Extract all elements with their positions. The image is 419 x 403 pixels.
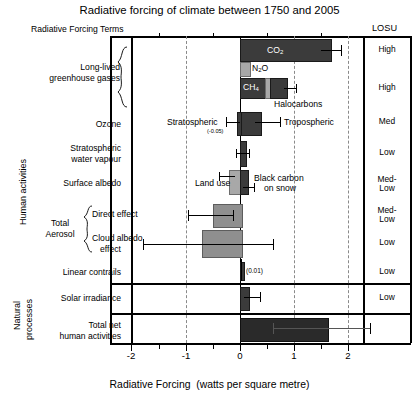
losu-value-llghg-1: High	[363, 45, 411, 54]
bar-total-net-human-activities	[240, 318, 329, 342]
errorbar-cap-black-carbon	[254, 183, 255, 192]
losu-value-solar: Low	[363, 293, 411, 302]
row-label-surface-albedo: Surface albedo	[15, 178, 121, 188]
xtick-label-0: 0	[230, 350, 250, 361]
tick-05	[267, 344, 268, 349]
errorbar-cap-aerosol-direct-high	[233, 210, 234, 221]
bar-label-halocarbons: Halocarbons	[274, 99, 322, 109]
errorbar-land-use	[219, 176, 235, 177]
bar-n2o	[240, 62, 251, 77]
errorbar-linear-contrails	[241, 259, 242, 281]
bar-tropospheric-ozone	[241, 112, 262, 136]
errorbar-stratospheric-ozone	[226, 122, 240, 123]
side-label-human-activities: Human activities	[18, 159, 28, 225]
row-label-total-aerosol-1: Total	[38, 218, 82, 228]
errorbar-swv	[236, 153, 249, 154]
bar-label-ch4: CH4	[243, 82, 259, 92]
bar-label-land-use: Land use	[195, 178, 230, 188]
chart-figure: Radiative forcing of climate between 175…	[0, 0, 419, 403]
errorbar-aerosol-direct	[188, 215, 233, 216]
losu-value-albedo-2: Low	[363, 184, 411, 193]
losu-rule-1	[363, 283, 411, 284]
errorbar-cap-aerosol-direct-low	[188, 210, 189, 221]
errorbar-cap-stratospheric-ozone	[226, 117, 227, 127]
row-label-swv-2: water vapour	[15, 154, 121, 164]
row-label-llghg-2: greenhouse gases	[15, 73, 120, 83]
errorbar-cap-tropospheric-ozone	[280, 117, 281, 127]
errorbar-solar-irradiance	[244, 297, 260, 298]
bar-co2	[240, 39, 332, 62]
losu-value-cloud-albedo: Low	[363, 238, 411, 247]
tick-top-neg05	[213, 33, 214, 38]
errorbar-cap-swv-low	[236, 149, 237, 158]
errorbar-halocarbons	[284, 88, 296, 89]
losu-value-llghg-2: High	[363, 83, 411, 92]
row-label-total-net-2: human activities	[15, 331, 121, 341]
bar-value-linear-contrails: (0.01)	[246, 267, 263, 274]
xtick-label-2: 2	[338, 350, 358, 361]
tick-neg05	[213, 344, 214, 349]
bar-aerosol-direct-effect	[213, 204, 243, 228]
errorbar-cap-co2-high	[341, 45, 342, 56]
divider-terms-plot	[131, 36, 133, 343]
bar-label-co2: CO2	[267, 45, 283, 55]
errorbar-cap-total-net-low	[273, 323, 274, 334]
bar-value-stratospheric: (-0.05)	[207, 128, 223, 134]
row-label-total-aerosol-2: Aerosol	[38, 229, 82, 239]
errorbar-cap-cloud-albedo-high	[273, 239, 274, 250]
tick-15	[321, 344, 322, 349]
bar-label-n2o: N2O	[252, 63, 268, 73]
losu-value-aerosol-direct-2: Low	[363, 215, 411, 224]
row-label-total-net-1: Total net	[15, 320, 121, 330]
losu-value-ozone: Med	[363, 117, 411, 126]
x-axis-title: Radiative Forcing (watts per square metr…	[0, 379, 419, 390]
bar-black-carbon-on-snow	[240, 170, 249, 195]
tick-top-neg15	[159, 33, 160, 38]
errorbar-cap-total-net-high	[370, 323, 371, 334]
xtick-label-neg2: -2	[121, 350, 141, 361]
row-label-ozone: Ozone	[15, 119, 121, 129]
tick-neg15	[159, 344, 160, 349]
xtick-label-1: 1	[284, 350, 304, 361]
column-header-losu: LOSU	[372, 24, 397, 34]
errorbar-cap-halocarbons	[296, 84, 297, 93]
frame-bottom-axis	[110, 343, 411, 345]
row-label-swv-1: Stratospheric	[15, 143, 121, 153]
errorbar-cap-cloud-albedo-low	[143, 239, 144, 250]
bar-label-stratospheric: Stratospheric	[167, 117, 218, 127]
errorbar-black-carbon	[243, 187, 254, 188]
bar-stratospheric-water-vapour	[240, 141, 247, 167]
gridline-neg1	[186, 36, 187, 343]
bar-label-tropospheric: Tropospheric	[284, 117, 334, 127]
bar-solar-irradiance	[240, 287, 250, 311]
row-label-solar-irradiance: Solar irradiance	[15, 293, 121, 303]
losu-value-swv: Low	[363, 148, 411, 157]
chart-title: Radiative forcing of climate between 175…	[0, 4, 419, 16]
errorbar-cap-solar-irradiance	[260, 292, 261, 302]
gridline-2	[348, 36, 349, 343]
errorbar-tropospheric-ozone	[255, 122, 280, 123]
column-header-terms: Radiative Forcing Terms	[31, 25, 124, 34]
errorbar-co2	[321, 50, 341, 51]
row-label-llghg-1: Long-lived	[15, 62, 120, 72]
tick-top-15	[321, 33, 322, 38]
brace-llghg	[116, 46, 128, 108]
errorbar-total-net	[273, 328, 370, 329]
row-label-linear-contrails: Linear contrails	[15, 267, 121, 277]
errorbar-cloud-albedo	[143, 244, 273, 245]
frame-top	[110, 36, 411, 38]
xtick-label-neg1: -1	[176, 350, 196, 361]
errorbar-cap-swv-high	[249, 149, 250, 158]
losu-rule-2	[363, 313, 411, 314]
bar-label-black-carbon-1: Black carbon	[254, 173, 304, 183]
losu-value-contrails: Low	[363, 267, 411, 276]
bar-label-black-carbon-2: on snow	[264, 183, 296, 193]
tick-top-05	[267, 33, 268, 38]
